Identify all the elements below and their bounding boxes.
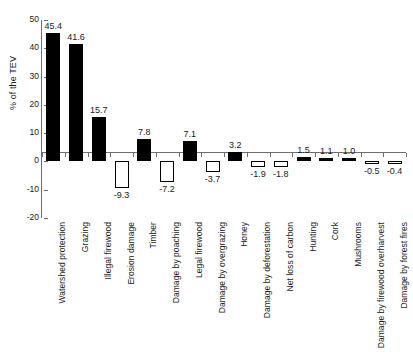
- bar: [137, 139, 151, 161]
- x-axis-category-label: Damage by overgrazing: [217, 222, 227, 313]
- x-axis-tick-mark: [156, 153, 157, 157]
- bar: [319, 158, 333, 161]
- bar: [160, 161, 174, 181]
- x-axis-tick-mark: [406, 153, 407, 157]
- x-axis-tick-mark: [201, 153, 202, 157]
- x-axis-tick-mark: [247, 153, 248, 157]
- bar-value-label: -3.7: [193, 174, 233, 184]
- x-axis-category-label: Timber: [148, 222, 158, 248]
- y-axis-tick-label: -10: [27, 184, 39, 194]
- bar-value-label: 7.8: [124, 127, 164, 137]
- x-axis-category-label: Damage by deforestation: [262, 222, 272, 318]
- x-axis-category-label: Cork: [330, 222, 340, 240]
- x-axis-tick-mark: [133, 153, 134, 157]
- y-axis-tick-label: 10: [30, 127, 39, 137]
- x-axis-tick-mark: [42, 153, 43, 157]
- y-axis-title: % of the TEV: [8, 38, 18, 128]
- bar: [206, 161, 220, 171]
- bar-value-label: 41.6: [56, 32, 96, 42]
- x-axis-category-label: Damage by poaching: [171, 222, 181, 303]
- bar: [46, 33, 60, 161]
- x-axis-category-label: Illegal firewood: [103, 222, 113, 280]
- y-axis-tick-label: 0: [34, 155, 39, 165]
- plot-area: 45.441.615.7-9.37.8-7.27.1-3.73.2-1.9-1.…: [42, 20, 406, 218]
- bar-value-label: -7.2: [147, 184, 187, 194]
- bar-value-label: 1.0: [329, 146, 369, 156]
- x-axis-category-label: Legal firewood: [194, 222, 204, 278]
- x-axis-category-label: Net loss of carbon: [285, 222, 295, 291]
- x-axis-category-label: Hunting: [308, 222, 318, 252]
- y-axis-tick-label: 30: [30, 71, 39, 81]
- x-axis-category-label: Erosion damage: [126, 222, 136, 285]
- bar: [297, 157, 311, 161]
- y-axis-tick-label: 40: [30, 42, 39, 52]
- x-axis-tick-mark: [179, 153, 180, 157]
- bar-chart: % of the TEV 50403020100-10-20 45.441.61…: [0, 0, 413, 352]
- bar-value-label: -1.8: [261, 169, 301, 179]
- bar-value-label: 3.2: [215, 140, 255, 150]
- bar: [69, 44, 83, 162]
- bar: [115, 161, 129, 187]
- bar-value-label: 45.4: [33, 21, 73, 31]
- x-axis-category-label: Watershed protection: [57, 222, 67, 303]
- bar-value-label: -9.3: [102, 190, 142, 200]
- bar: [251, 161, 265, 166]
- x-axis-category-labels: Watershed protectionGrazingIllegal firew…: [42, 222, 406, 352]
- x-axis-tick-mark: [110, 153, 111, 157]
- bar-value-label: 7.1: [170, 129, 210, 139]
- x-axis-category-label: Damage by firewood overharvest: [376, 222, 386, 348]
- y-axis-tick-label: 20: [30, 99, 39, 109]
- bar: [342, 158, 356, 161]
- bar: [92, 117, 106, 161]
- x-axis-category-label: Grazing: [80, 222, 90, 252]
- bar-value-label: 15.7: [79, 105, 119, 115]
- x-axis-tick-mark: [65, 153, 66, 157]
- x-axis-category-label: Mushrooms: [353, 222, 363, 267]
- bar: [228, 152, 242, 161]
- bar: [274, 161, 288, 166]
- x-axis-tick-mark: [224, 153, 225, 157]
- y-axis-tick-label: -20: [27, 212, 39, 222]
- bar: [388, 161, 402, 164]
- x-axis-category-label: Honey: [239, 222, 249, 247]
- bar: [365, 161, 379, 164]
- bar: [183, 141, 197, 161]
- x-axis-tick-mark: [270, 153, 271, 157]
- x-axis-category-label: Damage by forest fires: [399, 222, 409, 309]
- bar-value-label: -0.4: [375, 166, 413, 176]
- x-axis-tick-mark: [88, 153, 89, 157]
- y-axis-tick-mark: [44, 218, 48, 219]
- x-axis-tick-mark: [383, 153, 384, 157]
